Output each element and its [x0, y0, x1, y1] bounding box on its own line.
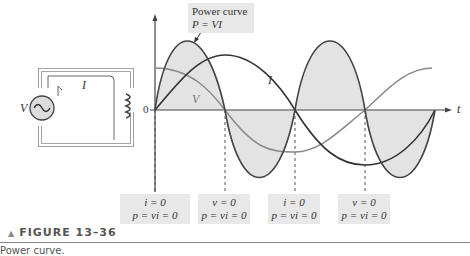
power-curve-label-box: Power curve P = VI [188, 3, 254, 33]
power-curve-title: Power curve [192, 5, 254, 18]
figure-caption: ▲FIGURE 13–36 [8, 226, 117, 239]
annotation-box-2: v = 0 p = vi = 0 [198, 194, 250, 224]
annotation-line: p = vi = 0 [120, 209, 190, 222]
annotation-line: v = 0 [198, 196, 250, 209]
figure-subtitle: Power curve. [0, 245, 65, 256]
voltage-curve-label: V [192, 92, 199, 107]
power-formula: P = VI [192, 18, 254, 31]
annotation-line: p = vi = 0 [338, 209, 390, 222]
y-axis-arrow-icon [153, 14, 158, 21]
annotation-box-3: i = 0 p = vi = 0 [268, 194, 320, 224]
annotation-line: p = vi = 0 [268, 209, 320, 222]
current-curve-label: I [268, 73, 272, 88]
annotation-line: p = vi = 0 [198, 209, 250, 222]
circuit-voltage-label: V [20, 101, 27, 116]
annotation-line: i = 0 [120, 196, 190, 209]
t-axis-label: t [457, 102, 460, 117]
figure-number: FIGURE 13–36 [19, 226, 117, 239]
annotation-line: i = 0 [268, 196, 320, 209]
annotation-box-4: v = 0 p = vi = 0 [338, 194, 390, 224]
circuit-current-label: I [82, 78, 86, 93]
triangle-icon: ▲ [8, 229, 15, 238]
circuit-schematic [30, 70, 132, 145]
t-axis-arrow-icon [445, 108, 452, 113]
caption-divider [0, 242, 470, 243]
origin-label: 0 [143, 103, 149, 115]
annotation-box-1: i = 0 p = vi = 0 [120, 194, 190, 224]
annotation-line: v = 0 [338, 196, 390, 209]
